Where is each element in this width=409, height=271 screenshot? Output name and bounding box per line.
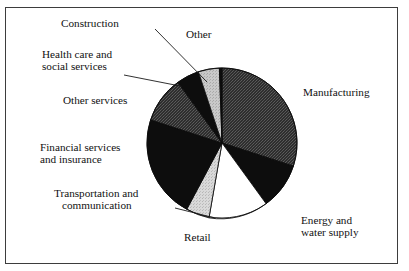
pie-label-retail: Retail xyxy=(184,231,211,243)
pie-label-energy-line2: water supply xyxy=(301,226,359,238)
pie-slices xyxy=(147,68,297,219)
pie-label-manufacturing: Manufacturing xyxy=(303,86,370,98)
pie-label-health-care-line1: Health care and xyxy=(42,48,113,60)
pie-chart-figure: Construction Other Health care and socia… xyxy=(0,0,409,271)
pie-chart-canvas: Construction Other Health care and socia… xyxy=(0,0,409,271)
pie-label-transportation-line2: communication xyxy=(62,199,132,211)
pie-label-financial-line2: and insurance xyxy=(40,153,102,165)
pie-label-financial-line1: Financial services xyxy=(40,141,120,153)
pie-label-health-care-line2: social services xyxy=(42,60,107,72)
leader-line-health-care xyxy=(124,75,180,86)
pie-label-energy-line1: Energy and xyxy=(301,214,352,226)
pie-label-transportation-line1: Transportation and xyxy=(54,187,139,199)
pie-label-other: Other xyxy=(186,28,212,40)
pie-label-construction: Construction xyxy=(61,17,119,29)
pie-label-other-services: Other services xyxy=(63,94,127,106)
